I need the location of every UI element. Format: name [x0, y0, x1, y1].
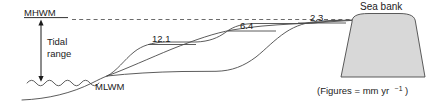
caption-main: (Figures = mm yr	[317, 85, 389, 96]
accretion-value-6-4: 6.4	[240, 20, 253, 31]
sea-bank-label: Sea bank	[360, 1, 403, 12]
cross-section-diagram: MHWM Tidal range 12.1 6.4 2.3 MLWM	[0, 0, 447, 108]
sea-bank-body	[341, 14, 425, 78]
accretion-value-12-1: 12.1	[152, 33, 171, 44]
mhwm-label: MHWM	[24, 7, 56, 18]
mudflat-profile-flat	[107, 20, 340, 76]
tidal-range-arrow	[38, 20, 43, 82]
caption-closing: )	[405, 85, 408, 96]
mudflat-profile-middle	[107, 20, 352, 76]
tidal-range-label-line2: range	[47, 48, 71, 59]
figure-root: MHWM Tidal range 12.1 6.4 2.3 MLWM	[0, 0, 447, 108]
accretion-value-2-3: 2.3	[310, 12, 323, 23]
tidal-range-label-line1: Tidal	[47, 36, 67, 47]
mudflat-profile-lower	[107, 20, 352, 76]
figure-caption: (Figures = mm yr −1 )	[317, 82, 408, 96]
caption-superscript: −1	[395, 85, 403, 92]
mlwm-label: MLWM	[95, 81, 124, 92]
